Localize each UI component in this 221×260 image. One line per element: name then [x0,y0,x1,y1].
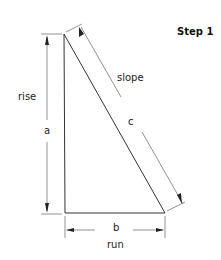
arrow-lower-right-icon [177,193,182,204]
arrow-right-icon [156,228,164,232]
rise-label: rise [18,92,36,102]
side-b-label: b [113,223,119,233]
right-triangle [64,34,165,213]
triangle-diagram [0,0,221,260]
slope-label: slope [117,73,144,83]
arrow-left-icon [66,228,74,232]
side-c-label: c [128,117,134,127]
arrow-up-icon [45,35,49,45]
rise-dimension [41,34,62,214]
side-a-label: a [44,126,50,136]
side-a [64,34,65,213]
side-c-hypotenuse [64,34,165,213]
run-label: run [107,240,124,250]
arrow-down-icon [45,203,49,213]
slope-dimension [66,24,185,211]
step-title: Step 1 [177,27,213,37]
